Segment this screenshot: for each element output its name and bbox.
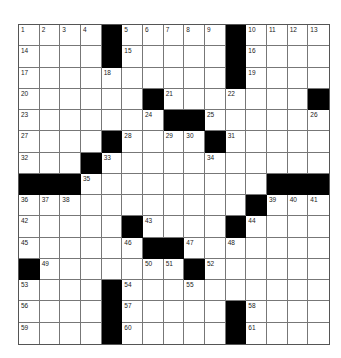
grid-cell[interactable]: [122, 153, 143, 174]
grid-cell[interactable]: [81, 46, 102, 67]
grid-cell[interactable]: [246, 238, 267, 259]
grid-cell[interactable]: [308, 68, 329, 89]
grid-cell[interactable]: [246, 110, 267, 131]
grid-cell[interactable]: 25: [205, 110, 226, 131]
grid-cell[interactable]: [40, 46, 61, 67]
grid-cell[interactable]: [246, 174, 267, 195]
grid-cell[interactable]: [246, 153, 267, 174]
grid-cell[interactable]: [246, 280, 267, 301]
grid-cell[interactable]: [40, 238, 61, 259]
grid-cell[interactable]: [60, 238, 81, 259]
grid-cell[interactable]: 22: [226, 89, 247, 110]
grid-cell[interactable]: 35: [81, 174, 102, 195]
grid-cell[interactable]: [143, 68, 164, 89]
grid-cell[interactable]: 46: [122, 238, 143, 259]
grid-cell[interactable]: 55: [184, 280, 205, 301]
grid-cell[interactable]: [81, 68, 102, 89]
grid-cell[interactable]: [184, 323, 205, 344]
grid-cell[interactable]: [102, 110, 123, 131]
grid-cell[interactable]: [308, 301, 329, 322]
grid-cell[interactable]: 2: [40, 25, 61, 46]
grid-cell[interactable]: [40, 323, 61, 344]
grid-cell[interactable]: [184, 46, 205, 67]
grid-cell[interactable]: [288, 68, 309, 89]
grid-cell[interactable]: [246, 131, 267, 152]
grid-cell[interactable]: 49: [40, 259, 61, 280]
grid-cell[interactable]: 32: [19, 153, 40, 174]
grid-cell[interactable]: [226, 174, 247, 195]
grid-cell[interactable]: [81, 323, 102, 344]
grid-cell[interactable]: 21: [164, 89, 185, 110]
grid-cell[interactable]: [267, 238, 288, 259]
grid-cell[interactable]: [164, 46, 185, 67]
grid-cell[interactable]: [184, 68, 205, 89]
grid-cell[interactable]: [40, 153, 61, 174]
grid-cell[interactable]: 17: [19, 68, 40, 89]
grid-cell[interactable]: [205, 68, 226, 89]
grid-cell[interactable]: 27: [19, 131, 40, 152]
grid-cell[interactable]: [81, 259, 102, 280]
grid-cell[interactable]: [40, 89, 61, 110]
grid-cell[interactable]: [143, 195, 164, 216]
grid-cell[interactable]: [226, 153, 247, 174]
grid-cell[interactable]: [184, 153, 205, 174]
grid-cell[interactable]: [288, 110, 309, 131]
grid-cell[interactable]: [267, 110, 288, 131]
grid-cell[interactable]: [122, 89, 143, 110]
grid-cell[interactable]: [81, 131, 102, 152]
grid-cell[interactable]: [122, 68, 143, 89]
grid-cell[interactable]: 13: [308, 25, 329, 46]
grid-cell[interactable]: [288, 280, 309, 301]
grid-cell[interactable]: 9: [205, 25, 226, 46]
grid-cell[interactable]: [102, 195, 123, 216]
grid-cell[interactable]: [81, 89, 102, 110]
grid-cell[interactable]: [143, 280, 164, 301]
grid-cell[interactable]: [40, 216, 61, 237]
grid-cell[interactable]: 43: [143, 216, 164, 237]
grid-cell[interactable]: [40, 280, 61, 301]
grid-cell[interactable]: [308, 280, 329, 301]
grid-cell[interactable]: [205, 89, 226, 110]
grid-cell[interactable]: [81, 301, 102, 322]
grid-cell[interactable]: [60, 323, 81, 344]
grid-cell[interactable]: [267, 280, 288, 301]
grid-cell[interactable]: [184, 301, 205, 322]
grid-cell[interactable]: [267, 216, 288, 237]
grid-cell[interactable]: 51: [164, 259, 185, 280]
grid-cell[interactable]: [267, 259, 288, 280]
grid-cell[interactable]: [288, 153, 309, 174]
grid-cell[interactable]: [81, 238, 102, 259]
grid-cell[interactable]: 47: [184, 238, 205, 259]
grid-cell[interactable]: [143, 46, 164, 67]
grid-cell[interactable]: [267, 89, 288, 110]
grid-cell[interactable]: [267, 301, 288, 322]
grid-cell[interactable]: [164, 153, 185, 174]
grid-cell[interactable]: [81, 195, 102, 216]
grid-cell[interactable]: 16: [246, 46, 267, 67]
grid-cell[interactable]: 8: [184, 25, 205, 46]
grid-cell[interactable]: [143, 131, 164, 152]
grid-cell[interactable]: [81, 280, 102, 301]
grid-cell[interactable]: [308, 153, 329, 174]
grid-cell[interactable]: 30: [184, 131, 205, 152]
grid-cell[interactable]: [164, 301, 185, 322]
grid-cell[interactable]: 12: [288, 25, 309, 46]
grid-cell[interactable]: 34: [205, 153, 226, 174]
grid-cell[interactable]: [143, 153, 164, 174]
grid-cell[interactable]: 53: [19, 280, 40, 301]
grid-cell[interactable]: [81, 216, 102, 237]
grid-cell[interactable]: [267, 46, 288, 67]
grid-cell[interactable]: [122, 174, 143, 195]
grid-cell[interactable]: 14: [19, 46, 40, 67]
grid-cell[interactable]: 28: [122, 131, 143, 152]
grid-cell[interactable]: 56: [19, 301, 40, 322]
grid-cell[interactable]: [60, 46, 81, 67]
grid-cell[interactable]: [288, 131, 309, 152]
grid-cell[interactable]: [102, 216, 123, 237]
grid-cell[interactable]: [60, 89, 81, 110]
grid-cell[interactable]: [40, 131, 61, 152]
grid-cell[interactable]: 29: [164, 131, 185, 152]
grid-cell[interactable]: 18: [102, 68, 123, 89]
grid-cell[interactable]: [205, 46, 226, 67]
grid-cell[interactable]: [164, 174, 185, 195]
